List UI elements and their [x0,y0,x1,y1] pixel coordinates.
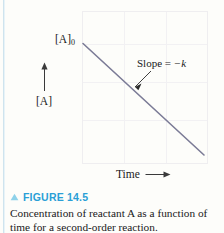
y-axis-label: [A] [26,95,62,107]
slope-annotation-symbol: −k [174,57,186,69]
triangle-up-icon [10,193,19,201]
y-intercept-label-subscript: 0 [71,38,75,47]
figure-caption-line-1: Concentration of reactant A as a functio… [10,207,195,219]
slope-annotation-prefix: Slope = [137,57,174,69]
up-arrow-icon [40,62,49,92]
x-axis-label-group: Time [116,168,171,180]
figure-page: [A]0 [A] Time Slope = −k [0,0,224,233]
annotation-arrow-head [135,84,142,91]
right-arrow-icon [145,170,171,179]
y-axis-label-group: [A] [26,62,62,107]
slope-annotation: Slope = −k [137,57,186,69]
y-intercept-label-text: [A] [55,33,71,45]
x-axis-label: Time [116,168,140,180]
annotation-arrow-shaft [135,71,151,87]
figure-graphic: [A]0 [A] Time Slope = −k [0,0,224,188]
figure-caption-header: FIGURE 14.5 [10,190,224,204]
figure-caption-text: Concentration of reactant A as a functio… [10,207,222,233]
figure-number: FIGURE 14.5 [23,191,88,203]
figure-caption-block: FIGURE 14.5 Concentration of reactant A … [10,190,224,233]
y-intercept-label: [A]0 [55,33,75,45]
